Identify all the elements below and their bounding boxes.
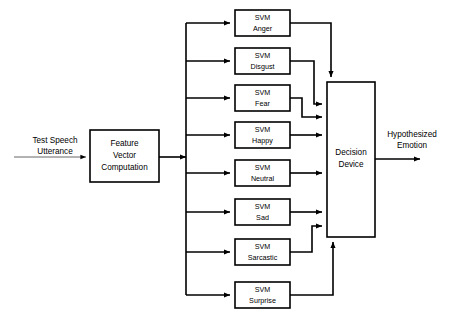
svm-label-anger-emotion: Anger — [253, 24, 273, 33]
svm-label-anger-prefix: SVM — [255, 13, 271, 22]
wire-fear-to-decision — [290, 98, 322, 117]
feature-block-line3: Computation — [101, 163, 148, 172]
output-label-line2: Emotion — [397, 141, 427, 150]
decision-device-line2: Device — [338, 160, 363, 169]
svm-label-neutral-emotion: Neutral — [251, 174, 275, 183]
svm-label-disgust-emotion: Disgust — [251, 62, 275, 71]
feature-block-line2: Vector — [113, 151, 136, 160]
wire-sarcastic-to-decision — [290, 226, 322, 252]
output-label-line1: Hypothesized — [387, 130, 437, 139]
svm-label-fear-prefix: SVM — [255, 88, 271, 97]
svm-label-surprise-prefix: SVM — [255, 285, 271, 294]
input-label-line1: Test Speech — [32, 136, 78, 145]
diagram-svg: Test Speech Utterance Feature Vector Com… — [0, 0, 453, 320]
svm-label-sad-emotion: Sad — [256, 213, 269, 222]
distribution-bus — [186, 23, 230, 295]
svm-label-sarcastic-prefix: SVM — [255, 242, 271, 251]
svm-label-disgust-prefix: SVM — [255, 51, 271, 60]
svm-label-sarcastic-emotion: Sarcastic — [248, 253, 278, 262]
feature-block-line1: Feature — [110, 139, 139, 148]
svm-label-fear-emotion: Fear — [255, 99, 270, 108]
svm-label-happy-emotion: Happy — [252, 136, 273, 145]
input-label-line2: Utterance — [37, 147, 73, 156]
svm-label-sad-prefix: SVM — [255, 202, 271, 211]
decision-device-line1: Decision — [335, 148, 367, 157]
svm-label-happy-prefix: SVM — [255, 125, 271, 134]
svm-label-surprise-emotion: Surprise — [249, 296, 276, 305]
svm-label-neutral-prefix: SVM — [255, 163, 271, 172]
wire-anger-to-decision — [290, 23, 331, 77]
block-diagram-canvas: Test Speech Utterance Feature Vector Com… — [0, 0, 453, 320]
